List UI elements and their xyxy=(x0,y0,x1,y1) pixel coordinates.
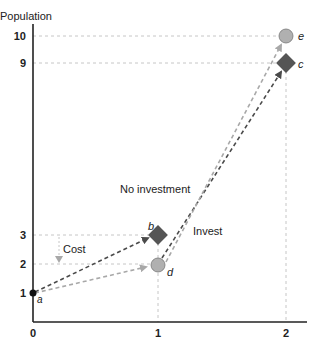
helper-gridlines xyxy=(33,36,286,322)
point-c-marker xyxy=(276,53,296,73)
x-tick-2: 2 xyxy=(283,327,289,339)
point-d-marker xyxy=(151,258,165,272)
x-tick-1: 1 xyxy=(155,327,161,339)
y-tick-2: 2 xyxy=(20,258,26,270)
population-diagram: Population 10 9 3 2 1 0 1 2 Cost No inve… xyxy=(0,0,325,352)
y-tick-10: 10 xyxy=(14,30,26,42)
y-tick-1: 1 xyxy=(20,287,26,299)
point-a-marker xyxy=(30,290,37,297)
x-tick-0: 0 xyxy=(30,327,36,339)
no-investment-label: No investment xyxy=(120,183,190,195)
point-b-label: b xyxy=(148,220,154,232)
point-c-label: c xyxy=(298,58,304,70)
y-tick-9: 9 xyxy=(20,57,26,69)
y-axis-label: Population xyxy=(0,10,52,22)
invest-label: Invest xyxy=(193,225,222,237)
point-e-label: e xyxy=(298,30,304,42)
cost-label: Cost xyxy=(63,243,86,255)
point-d-label: d xyxy=(167,266,174,278)
point-e-marker xyxy=(279,29,293,43)
y-tick-3: 3 xyxy=(20,229,26,241)
point-a-label: a xyxy=(37,294,43,305)
cost-arrow xyxy=(55,237,63,263)
